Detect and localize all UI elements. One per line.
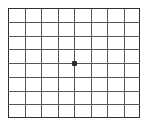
- center-point-marker: [72, 61, 77, 66]
- grid-line-horizontal: [8, 91, 140, 92]
- grid-plot-area: [8, 8, 140, 118]
- grid-line-horizontal: [8, 104, 140, 105]
- grid-line-horizontal: [8, 77, 140, 78]
- grid-line-horizontal: [8, 49, 140, 50]
- grid-line-horizontal: [8, 22, 140, 23]
- grid-line-horizontal: [8, 8, 140, 9]
- grid-line-horizontal: [8, 36, 140, 37]
- grid-line-horizontal: [8, 117, 140, 118]
- chart-figure: [0, 0, 149, 125]
